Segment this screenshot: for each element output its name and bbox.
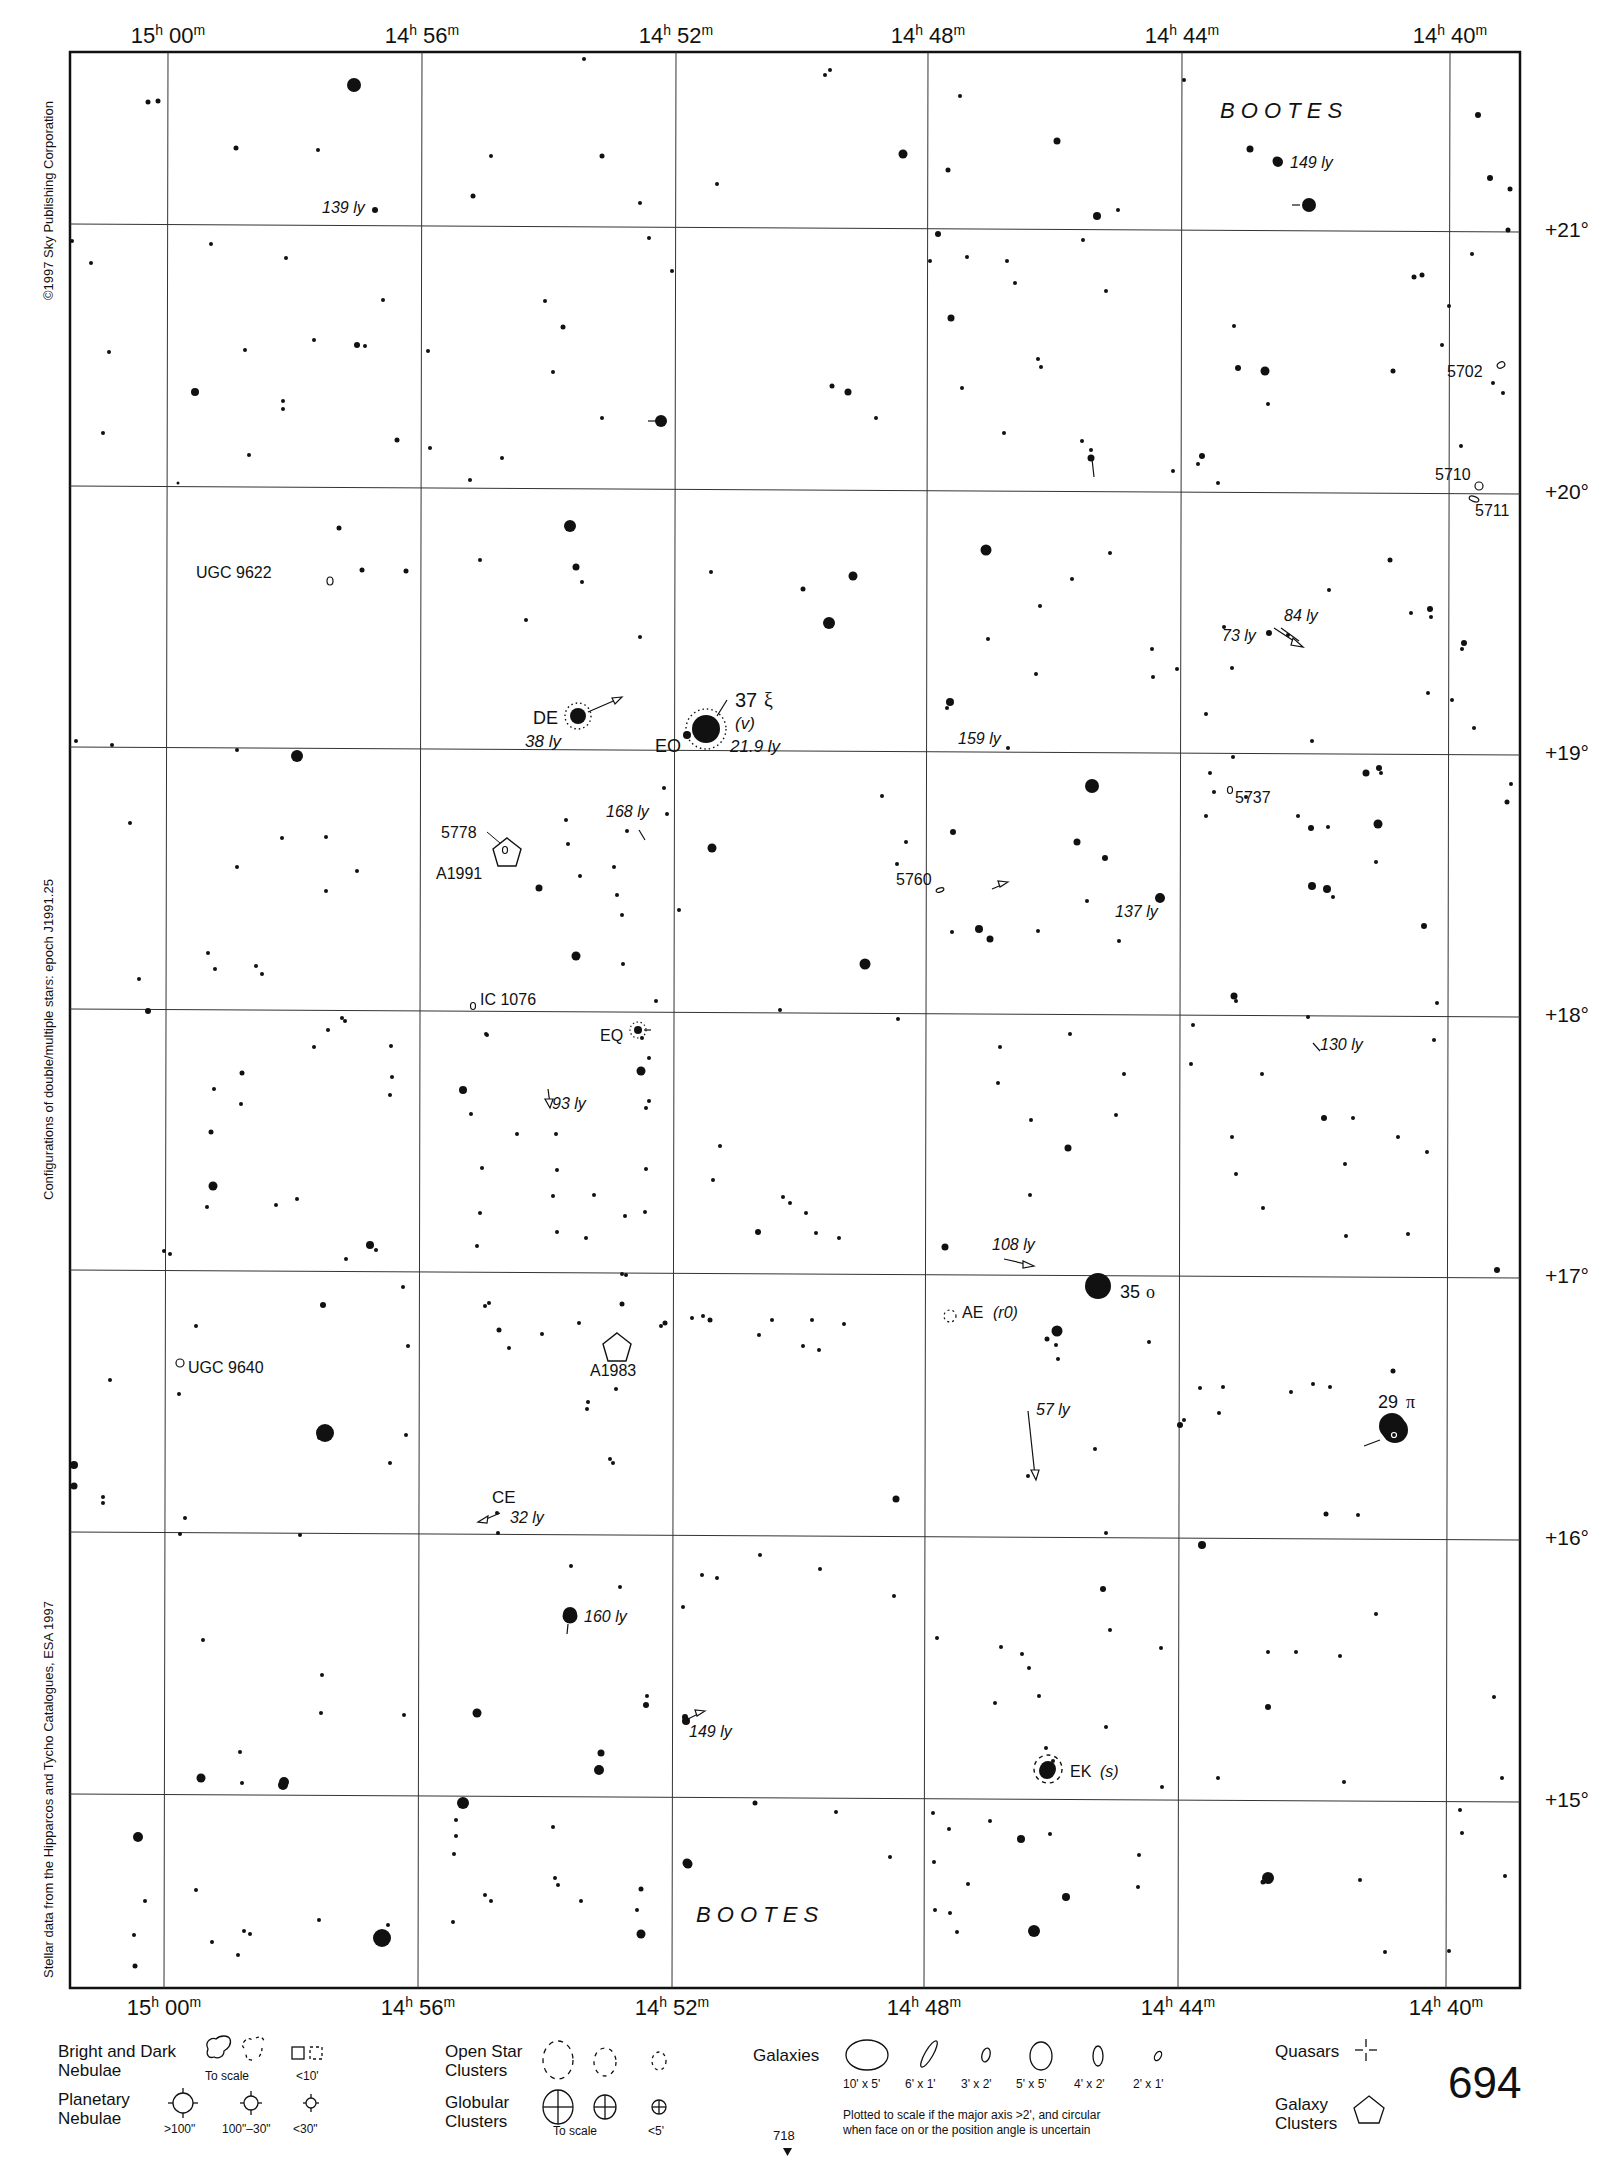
star-icon[interactable] (1447, 1949, 1451, 1953)
star-icon[interactable] (133, 1964, 138, 1969)
star-icon[interactable] (1182, 78, 1186, 82)
star-icon[interactable] (620, 913, 624, 917)
star-icon[interactable] (896, 1017, 900, 1021)
star-icon[interactable] (324, 889, 328, 893)
star-icon[interactable] (615, 893, 619, 897)
star-icon[interactable] (654, 999, 658, 1003)
star-icon[interactable] (298, 1533, 302, 1537)
star-icon[interactable] (621, 962, 625, 966)
star-icon[interactable] (1266, 630, 1272, 636)
star-icon[interactable] (209, 1130, 214, 1135)
star-icon[interactable] (1036, 357, 1040, 361)
star-icon[interactable] (156, 99, 161, 104)
star-icon[interactable] (1037, 1694, 1041, 1698)
star-icon[interactable] (965, 255, 969, 259)
star-icon[interactable] (177, 1392, 181, 1396)
star-icon[interactable] (343, 1019, 347, 1023)
star-icon[interactable] (1062, 1893, 1070, 1901)
star-icon[interactable] (395, 438, 400, 443)
star-icon[interactable] (958, 94, 962, 98)
star-icon[interactable] (778, 1008, 782, 1012)
star-icon[interactable] (1331, 895, 1335, 899)
star-icon[interactable] (1261, 367, 1270, 376)
star-icon[interactable] (594, 1765, 604, 1775)
galaxy-ugc9640-icon[interactable] (176, 1359, 184, 1367)
star-icon[interactable] (1234, 1172, 1238, 1176)
star-icon[interactable] (1363, 770, 1370, 777)
star-icon[interactable] (1230, 666, 1234, 670)
star-icon[interactable] (708, 1318, 713, 1323)
star-icon[interactable] (1500, 1776, 1504, 1780)
star-icon[interactable] (194, 1324, 198, 1328)
star-icon[interactable] (801, 587, 806, 592)
star-icon[interactable] (536, 885, 543, 892)
star-icon[interactable] (452, 1852, 456, 1856)
star-icon[interactable] (1191, 1023, 1195, 1027)
star-icon[interactable] (893, 1496, 900, 1503)
star-icon[interactable] (468, 478, 472, 482)
star-icon[interactable] (70, 1461, 78, 1469)
star-icon[interactable] (236, 1953, 240, 1957)
star-icon[interactable] (1028, 1925, 1040, 1937)
star-icon[interactable] (644, 1167, 648, 1171)
star-icon[interactable] (291, 750, 303, 762)
star-icon[interactable] (715, 1576, 719, 1580)
star-icon[interactable] (1070, 577, 1074, 581)
open-cluster-ae-icon[interactable] (944, 1310, 956, 1322)
star-icon[interactable] (1196, 462, 1200, 466)
star-icon[interactable] (1036, 929, 1040, 933)
star-icon[interactable] (1231, 993, 1238, 1000)
star-icon[interactable] (1289, 1390, 1293, 1394)
star-icon[interactable] (1221, 1385, 1225, 1389)
star-icon[interactable] (788, 1201, 792, 1205)
star-icon[interactable] (347, 78, 361, 92)
star-icon[interactable] (600, 154, 605, 159)
star-icon[interactable] (390, 1075, 394, 1079)
star-icon[interactable] (1074, 839, 1081, 846)
star-de-icon[interactable] (570, 708, 586, 724)
star-icon[interactable] (540, 1332, 544, 1336)
star-icon[interactable] (389, 1044, 393, 1048)
star-icon[interactable] (623, 1214, 627, 1218)
star-icon[interactable] (690, 1316, 694, 1320)
star-icon[interactable] (1306, 1015, 1310, 1019)
star-icon[interactable] (1321, 1115, 1327, 1121)
star-icon[interactable] (573, 564, 580, 571)
star-icon[interactable] (551, 370, 555, 374)
star-icon[interactable] (1085, 899, 1089, 903)
star-icon[interactable] (1406, 1232, 1410, 1236)
star-icon[interactable] (524, 618, 528, 622)
star-icon[interactable] (1231, 755, 1235, 759)
star-icon[interactable] (600, 416, 604, 420)
star-icon[interactable] (1421, 923, 1427, 929)
star-icon[interactable] (478, 558, 482, 562)
star-icon[interactable] (580, 580, 584, 584)
star-icon[interactable] (874, 416, 878, 420)
star-icon[interactable] (931, 1811, 935, 1815)
star-icon[interactable] (1261, 1880, 1266, 1885)
star-icon[interactable] (363, 344, 367, 348)
star-icon[interactable] (1472, 726, 1476, 730)
star-icon[interactable] (830, 384, 835, 389)
star-icon[interactable] (1026, 1474, 1030, 1478)
star-160ly-icon[interactable] (563, 1609, 578, 1624)
star-icon[interactable] (1310, 739, 1314, 743)
star-icon[interactable] (326, 1028, 330, 1032)
star-icon[interactable] (1100, 1586, 1106, 1592)
star-icon[interactable] (178, 1532, 182, 1536)
star-icon[interactable] (639, 1887, 644, 1892)
star-icon[interactable] (986, 637, 990, 641)
star-icon[interactable] (647, 1056, 651, 1060)
star-icon[interactable] (388, 1461, 392, 1465)
star-icon[interactable] (475, 1244, 479, 1248)
star-icon[interactable] (284, 256, 288, 260)
star-icon[interactable] (814, 1231, 818, 1235)
star-icon[interactable] (960, 386, 964, 390)
star-icon[interactable] (487, 1301, 491, 1305)
star-icon[interactable] (320, 1302, 326, 1308)
star-icon[interactable] (608, 1457, 612, 1461)
star-icon[interactable] (948, 1911, 952, 1915)
star-icon[interactable] (998, 1045, 1002, 1049)
star-icon[interactable] (191, 388, 199, 396)
star-icon[interactable] (209, 1182, 218, 1191)
